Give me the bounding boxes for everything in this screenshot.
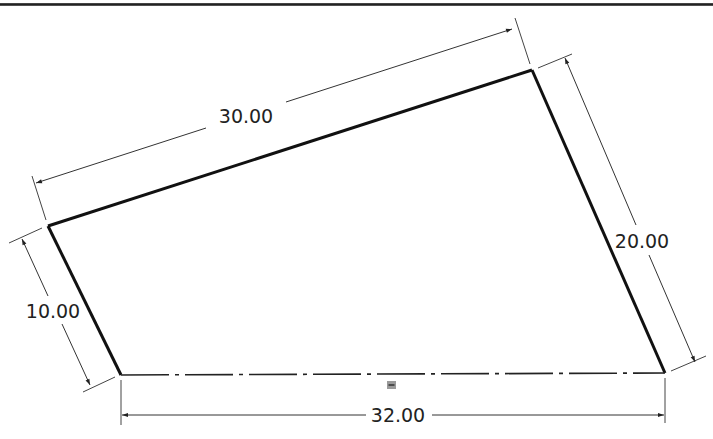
extension-line bbox=[515, 18, 530, 64]
dimension-label[interactable]: 30.00 bbox=[219, 105, 273, 127]
dimension-top[interactable]: 30.00 bbox=[32, 18, 530, 220]
extension-line bbox=[538, 54, 572, 68]
dimension-label[interactable]: 10.00 bbox=[26, 300, 80, 322]
dimension-line bbox=[62, 324, 90, 385]
sketch-profile[interactable] bbox=[48, 70, 665, 375]
right-edge[interactable] bbox=[532, 70, 665, 373]
dimension-right[interactable]: 20.00 bbox=[538, 54, 706, 371]
horizontal-relation-icon[interactable] bbox=[387, 381, 396, 389]
extension-line bbox=[32, 176, 46, 220]
dimension-line bbox=[649, 255, 695, 362]
bottom-edge-centerline[interactable] bbox=[121, 373, 665, 375]
extension-line bbox=[9, 228, 42, 243]
dimension-line bbox=[36, 128, 206, 183]
sketch-canvas[interactable]: 30.00 20.00 10.00 32.00 bbox=[0, 0, 713, 439]
extension-line bbox=[671, 356, 706, 371]
dimension-label[interactable]: 20.00 bbox=[615, 230, 669, 252]
dimension-line bbox=[22, 239, 48, 296]
top-edge[interactable] bbox=[48, 70, 532, 226]
dimension-line bbox=[286, 29, 512, 102]
dimension-label[interactable]: 32.00 bbox=[371, 404, 425, 426]
dimension-line bbox=[565, 58, 636, 225]
